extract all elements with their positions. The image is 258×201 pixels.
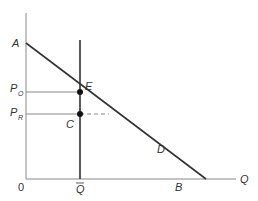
label-p0: P [10, 82, 18, 94]
label-b: B [175, 181, 182, 193]
label-d: D [157, 143, 165, 155]
label-c: C [66, 118, 74, 130]
demand-line [26, 43, 206, 179]
label-origin: 0 [18, 181, 24, 193]
point-e-dot [77, 89, 83, 95]
label-pr: P [10, 106, 18, 118]
label-q-bar: Q [76, 183, 85, 195]
label-e: E [85, 80, 93, 92]
demand-diagram: A E C D B Q 0 P O P R Q [0, 0, 258, 201]
label-pr-sub: R [18, 114, 23, 121]
label-q-axis: Q [240, 173, 249, 185]
label-p0-sub: O [18, 90, 24, 97]
point-c-dot [77, 111, 83, 117]
label-a: A [11, 37, 19, 49]
